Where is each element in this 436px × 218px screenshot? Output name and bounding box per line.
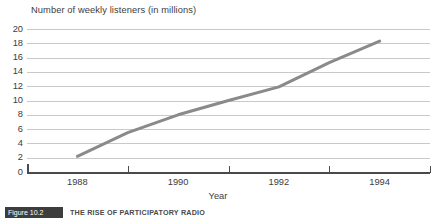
gridline [27,158,430,159]
gridline [27,101,430,102]
gridline [27,115,430,116]
gridline [27,86,430,87]
chart-figure: Number of weekly listeners (in millions)… [0,0,436,218]
y-axis-tick-label: 12 [3,82,23,91]
y-axis-tick-label: 4 [3,139,23,148]
x-axis-tick [430,166,431,173]
gridline [27,58,430,59]
figure-caption-text: THE RISE OF PARTICIPATORY RADIO [70,207,205,218]
figure-number-badge: Figure 10.2 [5,207,63,218]
y-axis-tick-label: 10 [3,96,23,105]
gridline [27,72,430,73]
x-axis-tick-label: 1992 [251,177,307,187]
x-axis-tick [128,166,129,173]
figure-caption-bar: Figure 10.2 THE RISE OF PARTICIPATORY RA… [0,207,436,218]
x-axis-tick-label: 1994 [352,177,408,187]
y-axis-tick-label: 14 [3,67,23,76]
plot-area [27,29,430,172]
y-axis-tick-label: 16 [3,53,23,62]
y-axis-tick-label: 2 [3,153,23,162]
gridline [27,129,430,130]
gridline [27,43,430,44]
y-axis-tick-label: 20 [3,25,23,34]
x-axis-tick-label: 1988 [49,177,105,187]
y-axis-tick-label: 8 [3,110,23,119]
x-axis-tick [329,166,330,173]
x-axis-tick-label: 1990 [150,177,206,187]
y-axis-tick-labels: 02468101214161820 [0,29,23,172]
x-axis-tick [27,166,28,173]
gridline [27,29,430,30]
x-axis-tick [229,166,230,173]
y-axis-tick-label: 0 [3,168,23,177]
x-axis-title: Year [0,191,436,201]
chart-title: Number of weekly listeners (in millions) [31,5,196,15]
gridline [27,143,430,144]
y-axis-tick-label: 6 [3,125,23,134]
y-axis-tick-label: 18 [3,39,23,48]
